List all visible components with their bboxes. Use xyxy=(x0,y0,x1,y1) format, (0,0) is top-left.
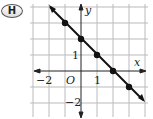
axis-labels: xy O xyxy=(66,4,141,87)
coordinate-plane: xy O −21 1−2 xyxy=(0,0,153,119)
svg-text:1: 1 xyxy=(72,49,79,62)
svg-text:−2: −2 xyxy=(65,96,81,109)
svg-text:O: O xyxy=(66,74,75,87)
svg-text:x: x xyxy=(134,56,141,69)
grid xyxy=(30,4,148,117)
svg-text:1: 1 xyxy=(94,74,101,87)
svg-text:y: y xyxy=(84,4,92,17)
svg-text:−2: −2 xyxy=(36,74,52,87)
